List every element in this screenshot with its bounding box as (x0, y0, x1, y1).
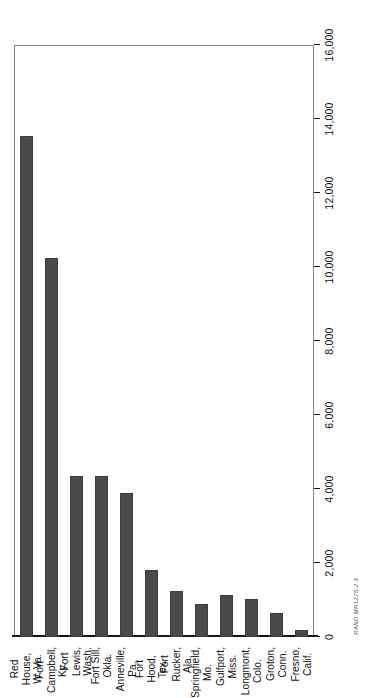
bar-series (14, 45, 314, 637)
category-label: Fort Rucker, Ala. (159, 647, 193, 682)
category-label: Gulfport, Miss. (215, 647, 238, 686)
axis-tick (314, 266, 320, 267)
axis-tick-label: 16,000 (323, 28, 335, 61)
category-label-slot: Fort Sill, Okla. (89, 641, 114, 691)
axis-tick (314, 340, 320, 341)
bar-slot (64, 45, 89, 637)
bar[interactable] (220, 595, 234, 637)
axis-tick (314, 562, 320, 563)
bar[interactable] (195, 604, 209, 637)
bar-slot (39, 45, 64, 637)
axis-tick-label: 14,000 (323, 102, 335, 135)
category-label: Longmont, Colo. (240, 647, 263, 695)
category-label: Springfield, Mo. (190, 647, 213, 698)
bar-slot (164, 45, 189, 637)
category-label-slot: Longmont, Colo. (239, 641, 264, 691)
bar-slot (139, 45, 164, 637)
axis-tick (314, 488, 320, 489)
bar-slot (189, 45, 214, 637)
axis-tick-label: 12,000 (323, 176, 335, 209)
category-label: Fort Sill, Okla. (90, 647, 113, 684)
bar[interactable] (170, 591, 184, 637)
axis-tick (314, 192, 320, 193)
category-label-slot: Springfield, Mo. (189, 641, 214, 691)
axis-tick-label: 6,000 (323, 401, 335, 428)
axis-tick (314, 636, 320, 637)
bar-slot (264, 45, 289, 637)
axis-tick (314, 414, 320, 415)
axis-tick (314, 118, 320, 119)
bar[interactable] (270, 613, 284, 637)
bar-slot (214, 45, 239, 637)
axis-tick-label: 0 (323, 634, 335, 640)
axis-tick (314, 44, 320, 45)
category-label: Fort Lewis, Wash. (59, 647, 93, 676)
report-source-id: RAND MR1275-2.3 (352, 578, 359, 635)
axis-tick-label: 8,000 (323, 327, 335, 354)
bar-slot (289, 45, 314, 637)
category-label: Groton, Conn. (265, 647, 288, 681)
bar[interactable] (120, 493, 134, 637)
axis-tick-label: 4,000 (323, 475, 335, 502)
bar-slot (14, 45, 39, 637)
bar-slot (239, 45, 264, 637)
category-label: Fresno, Calif. (290, 647, 313, 682)
axis-tick-label: 2,000 (323, 549, 335, 576)
bar[interactable] (245, 599, 259, 637)
value-axis-ticks: 02,0004,0006,0008,00010,00012,00014,0001… (314, 45, 348, 637)
bar[interactable] (95, 476, 109, 637)
category-label-slot: Gulfport, Miss. (214, 641, 239, 691)
category-label-slot: Groton, Conn. (264, 641, 289, 691)
bar[interactable] (70, 476, 84, 637)
bar[interactable] (295, 630, 309, 637)
axis-tick-label: 10,000 (323, 250, 335, 283)
bar[interactable] (45, 258, 59, 637)
bar[interactable] (145, 570, 159, 637)
category-axis-labels: Red House, W. Va.Fort Campbell, Ky.Fort … (14, 641, 314, 691)
bar-slot (114, 45, 139, 637)
bar-slot (89, 45, 114, 637)
category-label-slot: Fresno, Calif. (289, 641, 314, 691)
bar[interactable] (20, 136, 34, 637)
